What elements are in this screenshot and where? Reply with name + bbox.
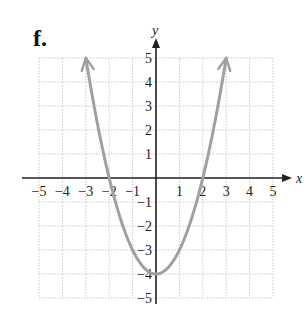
x-tick-label: 5 xyxy=(270,184,277,199)
y-tick-label: −2 xyxy=(137,219,152,234)
parabola-chart: f. xy −5−4−3−2−11234554321−1−2−3−4−5 xyxy=(0,0,308,321)
y-tick-label: 4 xyxy=(145,75,152,90)
y-axis-label: y xyxy=(150,23,159,38)
x-tick-label: −5 xyxy=(32,184,47,199)
x-tick-label: −4 xyxy=(55,184,70,199)
x-tick-label: 1 xyxy=(176,184,183,199)
x-axis-arrow-icon xyxy=(282,174,292,182)
y-axis-arrow-icon xyxy=(152,38,160,48)
y-tick-label: −5 xyxy=(137,291,152,306)
y-tick-label: −1 xyxy=(137,195,152,210)
x-tick-label: −3 xyxy=(78,184,93,199)
x-tick-label: 3 xyxy=(223,184,230,199)
y-tick-label: −3 xyxy=(137,243,152,258)
y-tick-label: 2 xyxy=(145,123,152,138)
panel-label: f. xyxy=(33,25,47,51)
y-tick-label: 5 xyxy=(145,51,152,66)
x-tick-label: 4 xyxy=(246,184,253,199)
y-tick-label: 1 xyxy=(145,147,152,162)
y-tick-label: 3 xyxy=(145,99,152,114)
axes: xy xyxy=(22,23,303,304)
x-axis-label: x xyxy=(295,171,303,186)
